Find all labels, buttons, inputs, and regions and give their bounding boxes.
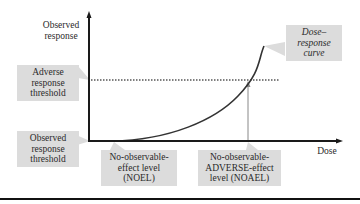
x-axis-arrow-icon xyxy=(336,139,343,144)
callout-line: (NOEL) xyxy=(105,173,173,184)
adverse-threshold-callout: Adverse response threshold xyxy=(17,65,79,101)
y-axis-arrow-icon xyxy=(87,11,92,18)
observed-threshold-callout: Observed response threshold xyxy=(17,131,79,167)
callout-line: response xyxy=(290,38,338,49)
noael-callout-pointer xyxy=(246,142,258,150)
noel-callout-pointer xyxy=(110,142,125,150)
callout-line: Dose– xyxy=(290,27,338,38)
callout-line: ADVERSE-effect xyxy=(202,163,277,174)
callout-line: No-observable- xyxy=(202,152,277,163)
dose-response-curve xyxy=(112,46,264,141)
noael-callout: No-observable- ADVERSE-effect level (NOA… xyxy=(198,150,281,186)
y-axis-label: Observed response xyxy=(36,20,86,41)
callout-line: effect level xyxy=(105,163,173,174)
callout-line: response xyxy=(21,144,75,155)
callout-line: level (NOAEL) xyxy=(202,173,277,184)
callout-line: response xyxy=(21,78,75,89)
curve-callout: Dose– response curve xyxy=(286,25,342,61)
callout-line: threshold xyxy=(21,154,75,165)
y-axis-label-line: response xyxy=(36,31,86,42)
y-axis-label-line: Observed xyxy=(36,20,86,31)
callout-line: Adverse xyxy=(21,67,75,78)
callout-line: threshold xyxy=(21,88,75,99)
noel-callout: No-observable- effect level (NOEL) xyxy=(101,150,177,186)
callout-line: No-observable- xyxy=(105,152,173,163)
callout-line: Observed xyxy=(21,133,75,144)
curve-callout-pointer xyxy=(264,42,285,56)
x-axis-label: Dose xyxy=(312,146,342,157)
callout-line: curve xyxy=(290,48,338,59)
